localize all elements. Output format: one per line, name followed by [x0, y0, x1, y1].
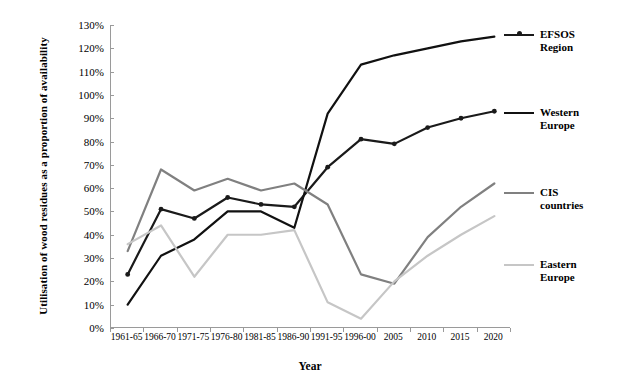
x-tick-mark	[310, 328, 311, 332]
y-tick-mark	[110, 142, 114, 143]
y-tick-mark	[110, 118, 114, 119]
x-tick-mark	[210, 328, 211, 332]
plot-lines	[111, 25, 511, 328]
x-tick-label: 1986-90	[277, 332, 309, 342]
legend-label-line1: CIS	[540, 186, 636, 199]
x-tick-label: 1976-80	[211, 332, 243, 342]
y-tick-mark	[110, 48, 114, 49]
x-tick-mark	[510, 328, 511, 332]
series-point-marker	[325, 165, 330, 170]
y-tick-label: 30%	[58, 253, 104, 264]
y-tick-mark	[110, 95, 114, 96]
legend-item[interactable]: EFSOSRegion	[540, 28, 636, 53]
x-tick-mark	[377, 328, 378, 332]
x-tick-label: 2010	[417, 332, 436, 342]
plot-area	[110, 25, 510, 328]
x-tick-mark	[477, 328, 478, 332]
y-tick-label: 130%	[58, 20, 104, 31]
y-axis-title: Utilisation of wood residues as a propor…	[37, 11, 49, 341]
series-point-marker	[192, 216, 197, 221]
series-point-marker	[359, 137, 364, 142]
x-tick-label: 2005	[384, 332, 403, 342]
y-tick-label: 120%	[58, 43, 104, 54]
x-tick-label: 1996-00	[344, 332, 376, 342]
y-tick-mark	[110, 211, 114, 212]
x-tick-mark	[143, 328, 144, 332]
y-tick-mark	[110, 25, 114, 26]
y-tick-mark	[110, 72, 114, 73]
cropped-caption-artifact	[6, 1, 626, 8]
y-tick-label: 40%	[58, 229, 104, 240]
y-axis-tick-labels: 0%10%20%30%40%50%60%70%80%90%100%110%120…	[56, 25, 104, 328]
x-tick-mark	[410, 328, 411, 332]
y-tick-mark	[110, 188, 114, 189]
x-tick-label: 2015	[451, 332, 470, 342]
y-tick-mark	[110, 235, 114, 236]
x-tick-label: 1971-75	[177, 332, 209, 342]
series-point-marker	[259, 202, 264, 207]
x-tick-mark	[177, 328, 178, 332]
legend-line-swatch	[504, 264, 534, 266]
legend-label-line1: Western	[540, 106, 636, 119]
x-tick-label: 2020	[484, 332, 503, 342]
series-point-marker	[459, 116, 464, 121]
y-tick-mark	[110, 305, 114, 306]
x-tick-mark	[443, 328, 444, 332]
series-line	[128, 216, 495, 319]
x-tick-label: 1961-65	[111, 332, 143, 342]
y-tick-label: 50%	[58, 206, 104, 217]
legend-label-line1: EFSOS	[540, 28, 636, 41]
y-tick-label: 90%	[58, 113, 104, 124]
x-tick-mark	[343, 328, 344, 332]
x-axis-title: Year	[110, 360, 510, 372]
legend-line-swatch	[504, 192, 534, 194]
y-tick-mark	[110, 258, 114, 259]
chart-container: Utilisation of wood residues as a propor…	[0, 0, 636, 392]
x-tick-mark	[277, 328, 278, 332]
x-axis-tick-labels: 1961-651966-701971-751976-801981-851986-…	[110, 332, 510, 352]
x-tick-label: 1991-95	[311, 332, 343, 342]
x-tick-mark	[110, 328, 111, 332]
y-tick-label: 60%	[58, 183, 104, 194]
y-tick-label: 20%	[58, 276, 104, 287]
legend-label-line2: Region	[540, 41, 636, 54]
series-point-marker	[425, 125, 430, 130]
series-point-marker	[292, 204, 297, 209]
y-tick-label: 0%	[58, 323, 104, 334]
legend-item[interactable]: WesternEurope	[540, 106, 636, 131]
x-tick-label: 1981-85	[244, 332, 276, 342]
legend-label-line2: countries	[540, 199, 636, 212]
y-tick-mark	[110, 165, 114, 166]
legend-label-line2: Europe	[540, 119, 636, 132]
x-tick-label: 1966-70	[144, 332, 176, 342]
series-point-marker	[159, 207, 164, 212]
series-point-marker	[225, 195, 230, 200]
series-point-marker	[125, 272, 130, 277]
x-tick-mark	[243, 328, 244, 332]
series-point-marker	[392, 141, 397, 146]
y-tick-label: 80%	[58, 136, 104, 147]
legend-label-line2: Europe	[540, 271, 636, 284]
legend-item[interactable]: EasternEurope	[540, 258, 636, 283]
y-tick-mark	[110, 281, 114, 282]
legend-label-line1: Eastern	[540, 258, 636, 271]
legend-point-marker	[517, 31, 522, 36]
legend-line-swatch	[504, 112, 534, 114]
y-tick-label: 10%	[58, 299, 104, 310]
y-tick-label: 110%	[58, 66, 104, 77]
y-tick-label: 70%	[58, 159, 104, 170]
series-point-marker	[492, 109, 497, 114]
legend-item[interactable]: CIScountries	[540, 186, 636, 211]
y-tick-label: 100%	[58, 89, 104, 100]
